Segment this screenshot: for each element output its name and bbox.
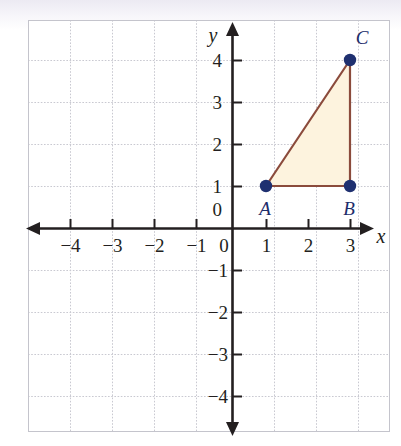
x-tick-label-neg1: −1 bbox=[186, 235, 206, 256]
x-tick-label-1: 1 bbox=[262, 235, 272, 256]
y-tick-label-1: 1 bbox=[213, 176, 223, 197]
point-marker-b bbox=[344, 180, 356, 192]
y-tick-label-neg2: −2 bbox=[208, 302, 228, 323]
y-tick-label-3: 3 bbox=[213, 92, 223, 113]
x-tick-label-3: 3 bbox=[346, 235, 356, 256]
x-axis-label: x bbox=[376, 225, 386, 247]
point-marker-a bbox=[260, 180, 272, 192]
point-label-a: A bbox=[257, 198, 271, 219]
y-tick-label-neg1: −1 bbox=[208, 260, 228, 281]
x-tick-label-neg4: −4 bbox=[60, 235, 81, 256]
y-tick-label-neg4: −4 bbox=[208, 386, 229, 407]
figure-canvas: −4 −3 −2 −1 1 2 3 0 4 3 2 1 0 −1 −2 −3 −… bbox=[0, 0, 401, 446]
x-tick-label-neg2: −2 bbox=[144, 235, 164, 256]
point-label-b: B bbox=[343, 198, 355, 219]
point-marker-c bbox=[344, 54, 356, 66]
coordinate-plane-svg: −4 −3 −2 −1 1 2 3 0 4 3 2 1 0 −1 −2 −3 −… bbox=[0, 0, 401, 446]
point-label-c: C bbox=[356, 27, 369, 48]
y-axis-label: y bbox=[207, 24, 218, 47]
origin-label: 0 bbox=[219, 235, 229, 256]
y-axis-origin-label: 0 bbox=[213, 199, 223, 220]
y-tick-label-neg3: −3 bbox=[208, 344, 228, 365]
y-tick-label-4: 4 bbox=[213, 50, 223, 71]
x-tick-label-2: 2 bbox=[304, 235, 314, 256]
x-tick-label-neg3: −3 bbox=[102, 235, 122, 256]
y-tick-label-2: 2 bbox=[213, 134, 223, 155]
